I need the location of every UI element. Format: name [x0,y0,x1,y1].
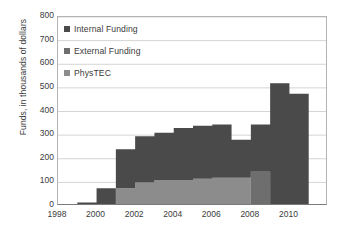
x-axis-tick: 2004 [153,210,193,219]
x-axis-tick: 2006 [191,210,231,219]
legend-label: PhysTEC [74,68,111,78]
legend-label: Internal Funding [74,24,138,34]
x-axis-tick: 2002 [114,210,154,219]
x-axis-tick: 1998 [37,210,77,219]
legend-item: Internal Funding [64,19,204,38]
legend-label: External Funding [74,46,141,56]
legend-item: External Funding [64,41,204,60]
x-axis-tick: 2010 [268,210,308,219]
legend-swatch-icon [64,26,70,32]
legend-swatch-icon [64,70,70,76]
x-axis-tick: 2008 [230,210,270,219]
funding-area-chart: Funds, in thousands of dollars 010020030… [0,0,345,240]
legend-item: PhysTEC [64,63,204,82]
x-axis-tick: 2000 [76,210,116,219]
legend-swatch-icon [64,48,70,54]
chart-legend: Internal FundingExternal FundingPhysTEC [64,19,204,85]
